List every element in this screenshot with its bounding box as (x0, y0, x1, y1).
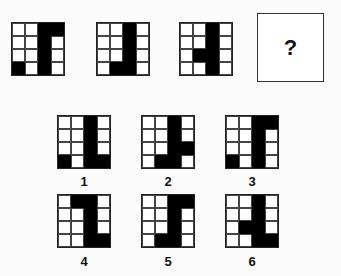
grid-cell (25, 62, 38, 75)
grid-cell (265, 221, 278, 234)
grid-cell (180, 49, 193, 62)
grid-cell (155, 234, 168, 247)
grid-cell (58, 142, 71, 155)
grid-cell (168, 116, 181, 129)
grid-cell (193, 23, 206, 36)
sequence-grid-3 (179, 22, 233, 76)
grid-cell (110, 23, 123, 36)
grid-cell (168, 129, 181, 142)
grid-cell (58, 116, 71, 129)
grid-cell (155, 208, 168, 221)
grid-cell (181, 129, 194, 142)
grid-cell (239, 142, 252, 155)
option-4-grid[interactable] (57, 194, 111, 248)
grid-cell (71, 142, 84, 155)
grid-cell (51, 23, 64, 36)
grid-cell (252, 221, 265, 234)
grid-cell (12, 62, 25, 75)
grid-cell (239, 116, 252, 129)
grid-cell (155, 155, 168, 168)
grid-cell (168, 155, 181, 168)
grid-cell (38, 62, 51, 75)
option-1-label: 1 (57, 174, 111, 189)
grid-cell (265, 195, 278, 208)
grid-cell (265, 208, 278, 221)
grid-cell (181, 234, 194, 247)
grid-cell (193, 36, 206, 49)
grid-cell (136, 23, 149, 36)
grid-cell (252, 234, 265, 247)
grid-cell (97, 129, 110, 142)
grid-cell (97, 62, 110, 75)
grid-cell (168, 142, 181, 155)
grid-cell (226, 142, 239, 155)
option-3-label: 3 (225, 174, 279, 189)
grid-cell (252, 208, 265, 221)
sequence-grid-2 (96, 22, 150, 76)
grid-cell (58, 195, 71, 208)
grid-cell (136, 62, 149, 75)
grid-cell (51, 62, 64, 75)
grid-cell (97, 195, 110, 208)
option-1-grid[interactable] (57, 115, 111, 169)
grid-cell (265, 142, 278, 155)
grid-cell (58, 221, 71, 234)
grid-cell (239, 221, 252, 234)
grid-cell (155, 195, 168, 208)
grid-cell (58, 208, 71, 221)
grid-cell (180, 62, 193, 75)
grid-cell (84, 234, 97, 247)
option-5-grid[interactable] (141, 194, 195, 248)
grid-cell (265, 234, 278, 247)
option-2-grid[interactable] (141, 115, 195, 169)
grid-cell (265, 155, 278, 168)
grid-cell (206, 62, 219, 75)
grid-cell (71, 195, 84, 208)
option-4-label: 4 (57, 254, 111, 269)
grid-cell (38, 23, 51, 36)
grid-cell (97, 36, 110, 49)
grid-cell (193, 49, 206, 62)
grid-cell (168, 221, 181, 234)
grid-cell (71, 155, 84, 168)
grid-cell (84, 221, 97, 234)
grid-cell (71, 116, 84, 129)
grid-cell (51, 49, 64, 62)
option-2-label: 2 (141, 174, 195, 189)
grid-cell (239, 155, 252, 168)
grid-cell (206, 23, 219, 36)
grid-cell (84, 142, 97, 155)
grid-cell (97, 142, 110, 155)
grid-cell (38, 36, 51, 49)
grid-cell (226, 116, 239, 129)
grid-cell (136, 36, 149, 49)
grid-cell (252, 129, 265, 142)
grid-cell (58, 129, 71, 142)
grid-cell (226, 129, 239, 142)
grid-cell (226, 208, 239, 221)
grid-cell (181, 155, 194, 168)
grid-cell (168, 208, 181, 221)
grid-cell (136, 49, 149, 62)
grid-cell (155, 129, 168, 142)
grid-cell (219, 49, 232, 62)
grid-cell (38, 49, 51, 62)
grid-cell (84, 208, 97, 221)
option-6-grid[interactable] (225, 194, 279, 248)
grid-cell (110, 36, 123, 49)
grid-cell (25, 36, 38, 49)
grid-cell (226, 155, 239, 168)
grid-cell (25, 23, 38, 36)
grid-cell (110, 62, 123, 75)
grid-cell (168, 195, 181, 208)
grid-cell (97, 155, 110, 168)
grid-cell (252, 116, 265, 129)
grid-cell (193, 62, 206, 75)
grid-cell (97, 49, 110, 62)
grid-cell (123, 49, 136, 62)
grid-cell (226, 195, 239, 208)
option-3-grid[interactable] (225, 115, 279, 169)
grid-cell (265, 129, 278, 142)
grid-cell (12, 36, 25, 49)
grid-cell (142, 208, 155, 221)
